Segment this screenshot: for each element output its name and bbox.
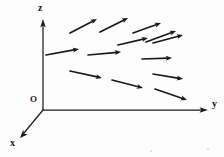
z-axis-label: z xyxy=(38,3,42,13)
origin-label: O xyxy=(30,95,37,104)
field-arrow-shaft xyxy=(88,52,117,55)
x-axis-label: x xyxy=(10,138,15,148)
field-arrow-shaft xyxy=(70,21,94,33)
field-arrow-shaft xyxy=(70,71,98,77)
x-axis-line xyxy=(24,110,43,133)
y-axis-label: y xyxy=(212,99,217,109)
scan-speck xyxy=(150,150,152,152)
field-arrow-shaft xyxy=(118,39,144,45)
field-arrow-shaft xyxy=(153,74,179,78)
field-arrow-shaft xyxy=(155,89,183,99)
field-arrow-shaft xyxy=(133,24,157,33)
field-arrow-shaft xyxy=(142,58,168,59)
vector-field-arrows xyxy=(46,18,187,100)
field-arrow-shaft xyxy=(112,80,139,87)
field-arrow-shaft xyxy=(46,50,75,55)
field-arrow-shaft xyxy=(100,20,125,32)
vector-field-figure: z y x O xyxy=(0,0,224,157)
figure-canvas xyxy=(0,0,224,157)
field-arrow-shaft xyxy=(153,36,179,43)
scan-speck xyxy=(207,148,209,150)
